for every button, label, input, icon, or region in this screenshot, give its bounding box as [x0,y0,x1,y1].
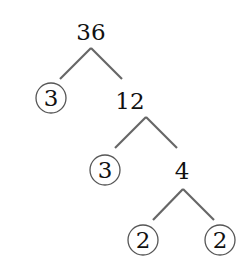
prime-node: 2 [213,227,228,253]
prime-node: 3 [44,85,59,111]
composite-node: 4 [175,158,190,184]
composite-node: 12 [115,88,144,114]
factor-tree: 36 3 12 3 4 2 2 [0,0,239,269]
prime-node: 3 [98,157,113,183]
prime-node: 2 [136,227,151,253]
root-node: 36 [76,19,105,45]
branches [60,48,214,220]
